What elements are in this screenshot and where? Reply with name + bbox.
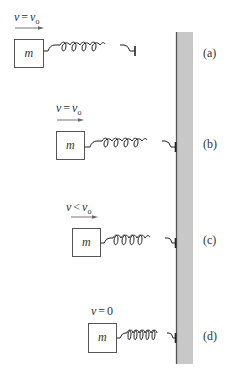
scene-d: v=0 m (d) bbox=[89, 304, 218, 353]
spring-d bbox=[117, 330, 177, 343]
panel-label-d: (d) bbox=[203, 329, 217, 343]
spring-b bbox=[85, 138, 177, 152]
mass-label-b: m bbox=[66, 138, 75, 152]
spring-a bbox=[44, 42, 136, 56]
velocity-arrow-c bbox=[71, 215, 98, 219]
velocity-label-a: v=vo bbox=[14, 10, 39, 26]
velocity-label-d: v=0 bbox=[91, 304, 113, 318]
scene-c: v<vo m (c) bbox=[66, 200, 216, 257]
velocity-arrow-a bbox=[15, 26, 44, 30]
spring-c bbox=[101, 235, 177, 248]
wall bbox=[176, 32, 193, 364]
spring-wall-diagram: v=vo m (a) v=vo m (b) bbox=[0, 0, 228, 371]
velocity-label-c: v<vo bbox=[66, 200, 91, 216]
mass-label-d: m bbox=[98, 330, 107, 344]
panel-label-c: (c) bbox=[203, 233, 216, 247]
velocity-label-b: v=vo bbox=[56, 101, 81, 117]
mass-label-a: m bbox=[25, 46, 34, 60]
velocity-arrow-b bbox=[57, 118, 84, 122]
panel-label-a: (a) bbox=[203, 46, 216, 60]
mass-label-c: m bbox=[82, 235, 91, 249]
panel-label-b: (b) bbox=[203, 137, 217, 151]
